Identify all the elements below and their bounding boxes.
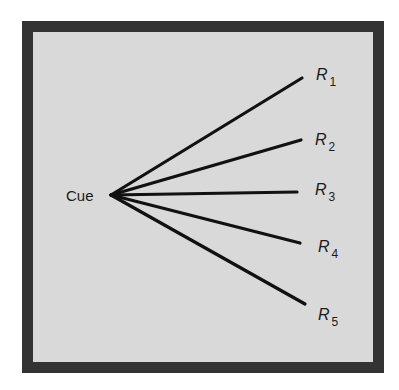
edge-r2 <box>111 140 301 195</box>
response-subscript: 3 <box>329 190 336 204</box>
response-subscript: 2 <box>329 140 336 154</box>
response-label-r2: R2 <box>315 131 336 154</box>
response-edges <box>111 78 305 304</box>
response-subscript: 4 <box>332 247 339 261</box>
edge-r5 <box>111 195 305 304</box>
response-subscript: 5 <box>332 315 339 329</box>
edge-r1 <box>111 78 302 195</box>
response-label-r4: R4 <box>318 238 339 261</box>
response-label-r5: R5 <box>318 306 339 329</box>
edge-r4 <box>111 195 300 243</box>
response-label-r3: R3 <box>315 181 336 204</box>
cue-response-diagram: Cue R1R2R3R4R5 <box>0 0 399 390</box>
response-subscript: 1 <box>330 75 337 89</box>
cue-label: Cue <box>66 187 94 204</box>
edge-r3 <box>111 192 297 195</box>
response-label-r1: R1 <box>316 66 337 89</box>
response-labels: R1R2R3R4R5 <box>315 66 339 329</box>
